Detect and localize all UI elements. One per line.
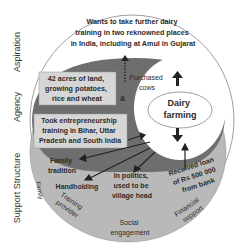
aspiration-text: Wants to take further dairy training in … [71,17,196,48]
training-text: Took entrepreneurship training in Bihar,… [39,117,121,144]
side-label-support-structure: Support Structure [12,153,22,224]
side-label-agency: Agency [12,91,22,122]
up-arrow-shaft [176,77,179,86]
handholding-text: Handholding [56,183,99,191]
down-arrow-shaft [176,128,179,136]
ampersand: & [120,94,126,103]
land-text: 42 acres of land, growing potatoes, rice… [45,74,109,103]
politics-text: In politics, used to be village head [112,172,152,200]
side-label-aspiration: Aspiration [12,32,22,72]
diagram-canvas: Aspiration Agency Support Structure Want… [0,0,242,249]
